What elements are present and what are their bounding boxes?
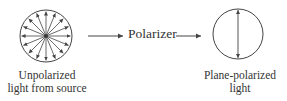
polarizer-label: Polarizer [128,26,177,42]
caption-line-1: Unpolarized [0,69,94,82]
plane-polarized-light-caption: Plane-polarized light [193,69,287,95]
plane-polarized-light-icon [213,9,263,59]
caption-line-2: light [193,82,287,95]
unpolarized-light-caption: Unpolarized light from source [0,69,94,95]
unpolarized-light-icon [20,10,72,62]
caption-line-1: Plane-polarized [193,69,287,82]
caption-line-2: light from source [0,82,94,95]
